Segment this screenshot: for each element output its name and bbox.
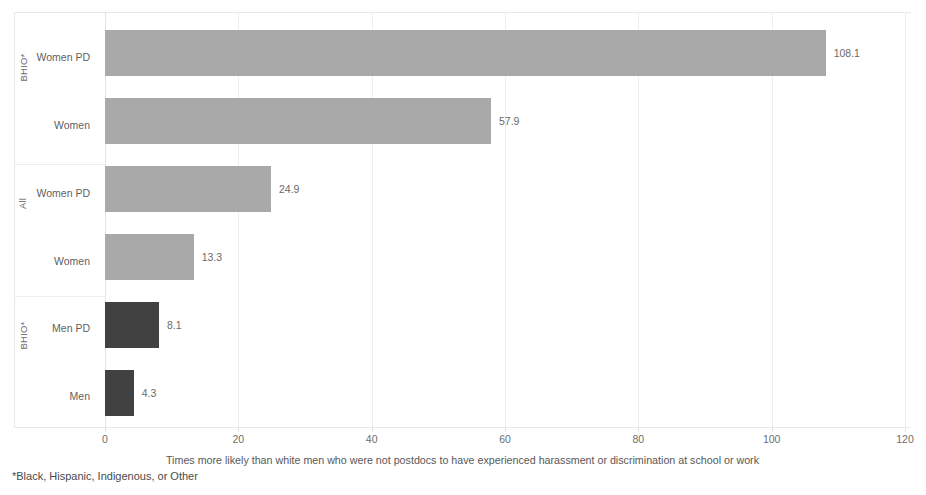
x-tick-mark — [505, 428, 506, 432]
bar[interactable] — [105, 302, 159, 348]
chart-figure: BHIO* All BHIO* Women PD Women Women PD … — [0, 0, 926, 495]
category-label-men-pd-bhio: Men PD — [0, 322, 100, 334]
category-label-women-pd-all: Women PD — [0, 187, 100, 199]
bar[interactable] — [105, 234, 194, 280]
bar-value-label: 4.3 — [142, 387, 157, 399]
x-tick-label: 0 — [102, 433, 108, 445]
x-tick-label: 20 — [232, 433, 244, 445]
category-label-text: Women — [54, 119, 90, 131]
category-label-text: Women — [54, 255, 90, 267]
x-tick-label: 60 — [499, 433, 511, 445]
bar-value-label: 57.9 — [499, 115, 519, 127]
x-tick-label: 80 — [632, 433, 644, 445]
bar[interactable] — [105, 30, 826, 76]
x-axis-title: Times more likely than white men who wer… — [14, 454, 911, 466]
x-tick-mark — [638, 428, 639, 432]
x-tick-mark — [372, 428, 373, 432]
x-tick-mark — [772, 428, 773, 432]
bar[interactable] — [105, 166, 271, 212]
gridline-120 — [905, 12, 906, 429]
x-tick-label: 120 — [896, 433, 914, 445]
category-label-text: Men PD — [52, 322, 90, 334]
bar-value-label: 108.1 — [834, 47, 860, 59]
bar[interactable] — [105, 370, 134, 416]
category-label-text: Men — [70, 390, 90, 402]
x-tick-mark — [905, 428, 906, 432]
footnote: *Black, Hispanic, Indigenous, or Other — [12, 470, 198, 482]
category-label-women-bhio: Women — [0, 119, 100, 131]
x-tick-mark — [238, 428, 239, 432]
group-label-all: All — [10, 198, 36, 209]
x-tick-label: 40 — [366, 433, 378, 445]
category-label-text: Women PD — [37, 51, 91, 63]
x-tick-mark — [105, 428, 106, 432]
x-tick-label: 100 — [763, 433, 781, 445]
bar-value-label: 13.3 — [202, 251, 222, 263]
bar-value-label: 24.9 — [279, 183, 299, 195]
category-label-men-bhio: Men — [0, 390, 100, 402]
category-label-women-all: Women — [0, 255, 100, 267]
bar-value-label: 8.1 — [167, 319, 182, 331]
bar[interactable] — [105, 98, 491, 144]
category-label-text: Women PD — [37, 187, 91, 199]
category-label-women-pd-bhio: Women PD — [0, 51, 100, 63]
group-separator — [14, 296, 105, 297]
group-separator — [14, 164, 105, 165]
group-label-text: All — [17, 198, 28, 209]
group-label-bhio-top: BHIO* — [10, 62, 36, 73]
